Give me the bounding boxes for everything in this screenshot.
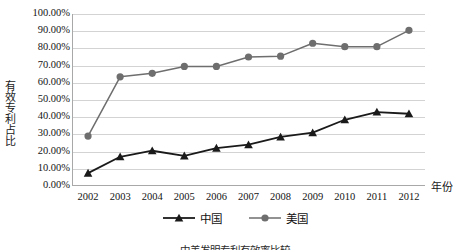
y-tick-label: 30.00%	[8, 127, 70, 138]
gridline	[73, 14, 425, 15]
y-tick-label: 70.00%	[8, 59, 70, 70]
gridline	[73, 152, 425, 153]
y-tick-label: 40.00%	[8, 110, 70, 121]
legend-item-中国[interactable]: 中国	[162, 210, 222, 226]
y-tick-label: 90.00%	[8, 24, 70, 35]
gridline	[73, 117, 425, 118]
y-tick-label: 10.00%	[8, 162, 70, 173]
y-tick-label: 20.00%	[8, 145, 70, 156]
gridline	[73, 48, 425, 49]
legend-swatch-triangle-icon	[162, 212, 196, 224]
gridline	[73, 134, 425, 135]
x-tick-label: 2012	[389, 191, 429, 202]
data-point-marker	[261, 214, 268, 221]
y-tick-label: 60.00%	[8, 76, 70, 87]
legend-label: 美国	[286, 210, 308, 226]
y-tick-label: 100.00%	[8, 7, 70, 18]
y-tick-label: 80.00%	[8, 41, 70, 52]
x-axis-tick-labels: 2002200320042005200620072008200920102011…	[72, 191, 425, 209]
plot-area	[72, 14, 425, 186]
gridline	[73, 31, 425, 32]
chart-legend: 中国美国	[0, 208, 470, 228]
y-tick-label: 50.00%	[8, 93, 70, 104]
x-axis-title: 年份	[431, 178, 453, 194]
gridline	[73, 100, 425, 101]
gridline	[73, 66, 425, 67]
gridline	[73, 169, 425, 170]
legend-swatch-circle-icon	[248, 212, 282, 224]
legend-label: 中国	[200, 210, 222, 226]
legend-item-美国[interactable]: 美国	[248, 210, 308, 226]
y-tick-label: 0.00%	[8, 179, 70, 190]
chart-figure: 有效专利占比 100.00%90.00%80.00%70.00%60.00%50…	[0, 0, 470, 250]
gridline	[73, 83, 425, 84]
figure-caption: 中美发明专利有效率比较	[0, 242, 470, 250]
